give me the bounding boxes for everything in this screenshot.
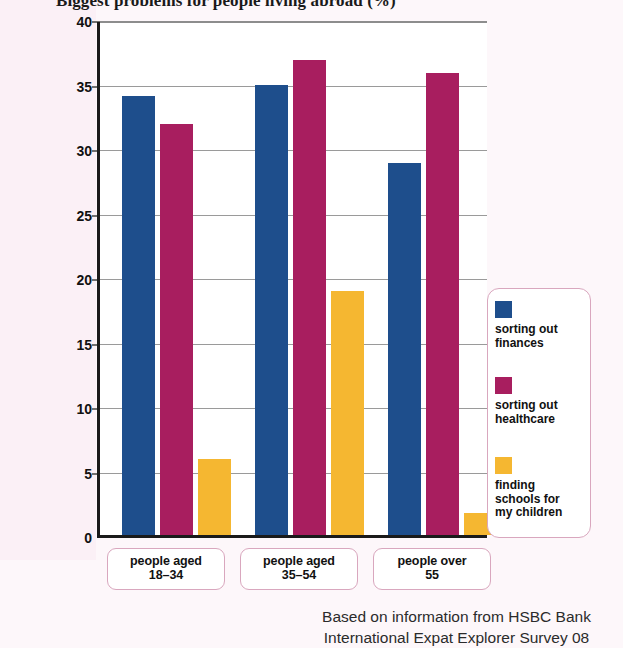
y-axis-tick-label-10: 10	[46, 401, 92, 417]
chart-title: Biggest problems for people living abroa…	[56, 0, 576, 11]
legend-swatch-icon	[495, 301, 512, 318]
bar[interactable]	[160, 124, 193, 536]
y-axis: 0510152025303540	[40, 22, 92, 538]
y-axis-tick-label-15: 15	[46, 337, 92, 353]
category-label-box: people aged 35–54	[240, 548, 358, 590]
chart-page: Biggest problems for people living abroa…	[0, 0, 623, 648]
legend-item[interactable]: sorting out healthcare	[495, 377, 591, 426]
bar[interactable]	[255, 85, 288, 535]
bar[interactable]	[293, 60, 326, 535]
bar[interactable]	[198, 459, 231, 535]
bar[interactable]	[388, 163, 421, 535]
bar[interactable]	[122, 96, 155, 535]
bar-group	[122, 22, 238, 535]
plot-area	[97, 22, 487, 538]
legend-label: sorting out healthcare	[495, 399, 591, 426]
y-axis-tick-label-5: 5	[46, 466, 92, 482]
bar[interactable]	[331, 291, 364, 535]
legend-item[interactable]: finding schools for my children	[495, 457, 591, 520]
legend-swatch-icon	[495, 377, 512, 394]
legend-swatch-icon	[495, 457, 512, 474]
legend-item[interactable]: sorting out finances	[495, 301, 591, 350]
category-label-box: people over 55	[373, 548, 491, 590]
y-axis-tick-label-0: 0	[46, 530, 92, 546]
chart-legend: sorting out financessorting out healthca…	[487, 288, 591, 538]
y-axis-tick-label-20: 20	[46, 272, 92, 288]
category-label-box: people aged 18–34	[107, 548, 225, 590]
legend-label: finding schools for my children	[495, 479, 591, 520]
legend-label: sorting out finances	[495, 323, 591, 350]
source-note: Based on information from HSBC Bank Inte…	[290, 606, 623, 648]
y-axis-tick-label-40: 40	[46, 14, 92, 30]
y-axis-tick-label-30: 30	[46, 143, 92, 159]
bar-group	[255, 22, 371, 535]
y-axis-tick-label-25: 25	[46, 208, 92, 224]
y-axis-tick-label-35: 35	[46, 79, 92, 95]
bar[interactable]	[426, 73, 459, 535]
